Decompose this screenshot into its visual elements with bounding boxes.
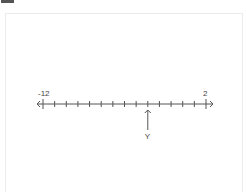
- min-label: -12: [38, 89, 50, 98]
- marker-label: Y: [145, 132, 151, 141]
- number-line: [37, 99, 213, 130]
- max-label: 2: [203, 89, 208, 98]
- number-line-diagram: -12 2 Y: [0, 0, 247, 192]
